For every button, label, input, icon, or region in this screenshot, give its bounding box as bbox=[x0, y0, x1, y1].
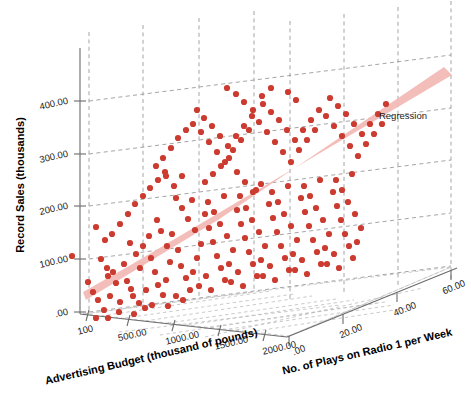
data-point bbox=[292, 267, 298, 273]
data-point bbox=[234, 169, 240, 175]
data-point bbox=[280, 149, 286, 155]
data-point bbox=[250, 189, 256, 195]
data-point bbox=[202, 211, 208, 217]
data-point bbox=[269, 189, 275, 195]
data-point bbox=[206, 225, 212, 231]
data-point bbox=[240, 283, 246, 289]
data-point bbox=[346, 243, 352, 249]
data-point bbox=[209, 123, 215, 129]
data-point bbox=[85, 279, 91, 285]
data-point bbox=[330, 189, 336, 195]
data-point bbox=[282, 255, 288, 261]
data-point bbox=[179, 173, 185, 179]
data-point bbox=[298, 195, 304, 201]
data-point bbox=[250, 261, 256, 267]
data-point bbox=[327, 95, 333, 101]
data-point bbox=[354, 239, 360, 245]
data-point bbox=[342, 231, 348, 237]
data-point bbox=[178, 263, 184, 269]
data-point bbox=[288, 159, 294, 165]
data-point bbox=[211, 209, 217, 215]
data-point bbox=[318, 261, 324, 267]
data-point bbox=[241, 123, 247, 129]
data-point bbox=[304, 137, 310, 143]
data-point bbox=[299, 257, 305, 263]
data-point bbox=[246, 127, 252, 133]
data-point bbox=[132, 201, 138, 207]
data-point bbox=[317, 177, 323, 183]
data-point bbox=[189, 197, 195, 203]
data-point bbox=[95, 297, 101, 303]
data-point bbox=[109, 231, 115, 237]
data-point bbox=[267, 263, 273, 269]
data-point bbox=[160, 155, 166, 161]
data-point bbox=[254, 273, 260, 279]
data-point bbox=[262, 243, 268, 249]
data-point bbox=[331, 123, 337, 129]
data-point bbox=[155, 177, 161, 183]
data-point bbox=[306, 223, 312, 229]
data-point bbox=[224, 233, 230, 239]
data-point bbox=[371, 131, 377, 137]
data-point bbox=[116, 309, 122, 315]
y-tick-label: 300.00 bbox=[38, 148, 69, 165]
data-point bbox=[228, 279, 234, 285]
data-point bbox=[143, 287, 149, 293]
z-tick-label: 20.00 bbox=[338, 321, 364, 340]
data-point bbox=[210, 239, 216, 245]
data-point bbox=[153, 163, 159, 169]
data-point bbox=[260, 101, 266, 107]
data-point bbox=[226, 261, 232, 267]
data-point bbox=[335, 103, 341, 109]
data-point bbox=[164, 243, 170, 249]
data-point bbox=[226, 155, 232, 161]
data-point bbox=[355, 153, 361, 159]
data-point bbox=[198, 241, 204, 247]
data-point bbox=[307, 193, 313, 199]
data-point bbox=[167, 259, 173, 265]
x-axis-title: Advertising Budget (thousand of pounds) bbox=[44, 326, 259, 387]
data-point bbox=[242, 235, 248, 241]
data-point bbox=[238, 137, 244, 143]
data-point bbox=[300, 127, 306, 133]
data-point bbox=[339, 187, 345, 193]
data-point bbox=[105, 315, 111, 321]
x-tick-label: 100 bbox=[76, 322, 94, 336]
data-point bbox=[160, 292, 166, 298]
data-point bbox=[162, 169, 168, 175]
data-point bbox=[338, 217, 344, 223]
data-point bbox=[190, 269, 196, 275]
data-point bbox=[275, 199, 281, 205]
data-point bbox=[268, 85, 274, 91]
data-point bbox=[322, 245, 328, 251]
data-point bbox=[249, 217, 255, 223]
data-points bbox=[69, 85, 389, 321]
data-point bbox=[148, 255, 154, 261]
data-point bbox=[326, 231, 332, 237]
data-point bbox=[379, 121, 385, 127]
axis-lines bbox=[80, 48, 457, 337]
data-point bbox=[256, 229, 262, 235]
data-point bbox=[198, 129, 204, 135]
data-point bbox=[117, 221, 123, 227]
data-point bbox=[350, 255, 356, 261]
data-point bbox=[286, 267, 292, 273]
data-point bbox=[224, 85, 230, 91]
data-point bbox=[333, 177, 339, 183]
data-point bbox=[270, 215, 276, 221]
data-point bbox=[125, 211, 131, 217]
data-point bbox=[105, 273, 111, 279]
data-point bbox=[259, 93, 265, 99]
data-point bbox=[222, 277, 228, 283]
data-point bbox=[241, 99, 247, 105]
data-point bbox=[218, 163, 224, 169]
data-point bbox=[205, 199, 211, 205]
data-point bbox=[158, 228, 164, 234]
data-point bbox=[221, 193, 227, 199]
data-point bbox=[142, 305, 148, 311]
data-point bbox=[230, 247, 236, 253]
data-point bbox=[314, 249, 320, 255]
data-point bbox=[194, 255, 200, 261]
data-point bbox=[190, 121, 196, 127]
data-point bbox=[218, 265, 224, 271]
